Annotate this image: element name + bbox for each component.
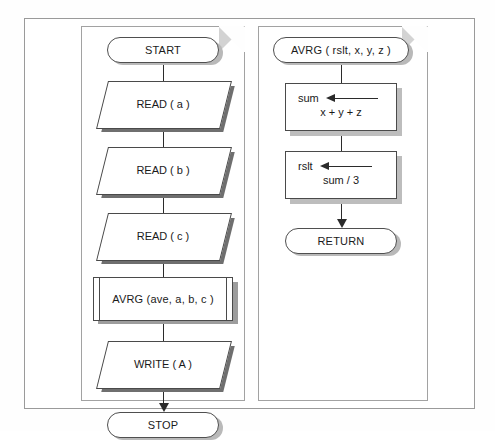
node-avrg-call[interactable]: AVRG (ave, a, b, c ) [93,277,233,321]
node-read-b[interactable]: READ ( b ) [102,147,224,193]
node-rslt-expression: sum / 3 [286,172,396,186]
page-fold-corner-icon [219,26,245,52]
node-stop-label: STOP [148,419,179,431]
node-start-label: START [145,44,181,56]
node-rslt-target: rslt [298,160,313,172]
node-write-label: WRITE ( A ) [102,341,224,387]
assignment-arrow-left-icon [320,162,372,171]
node-sum-target: sum [298,92,319,104]
node-sum-expression: x + y + z [286,104,396,118]
node-start[interactable]: START [107,37,219,63]
main-program-page: START READ ( a ) READ ( b ) READ ( c ) A… [81,26,245,401]
node-read-a[interactable]: READ ( a ) [102,81,224,127]
node-read-c-label: READ ( c ) [102,213,224,259]
node-return-label: RETURN [317,235,364,247]
connector-arrowhead-return [337,219,347,228]
node-stop[interactable]: STOP [107,412,219,438]
node-read-b-label: READ ( b ) [102,147,224,193]
node-write[interactable]: WRITE ( A ) [102,341,224,387]
node-avrg-header[interactable]: AVRG ( rslt, x, y, z ) [273,37,409,63]
node-sum-assignment[interactable]: sum x + y + z [285,83,397,131]
avrg-subroutine-page: AVRG ( rslt, x, y, z ) sum x + y + z [258,26,428,401]
node-read-c[interactable]: READ ( c ) [102,213,224,259]
node-rslt-assignment[interactable]: rslt sum / 3 [285,151,397,199]
connector-arrowhead-stop [159,403,169,412]
node-read-a-label: READ ( a ) [102,81,224,127]
node-return[interactable]: RETURN [285,228,397,254]
assignment-arrow-left-icon [326,94,378,103]
node-avrg-header-label: AVRG ( rslt, x, y, z ) [291,44,391,56]
node-avrg-call-label: AVRG (ave, a, b, c ) [112,293,214,305]
